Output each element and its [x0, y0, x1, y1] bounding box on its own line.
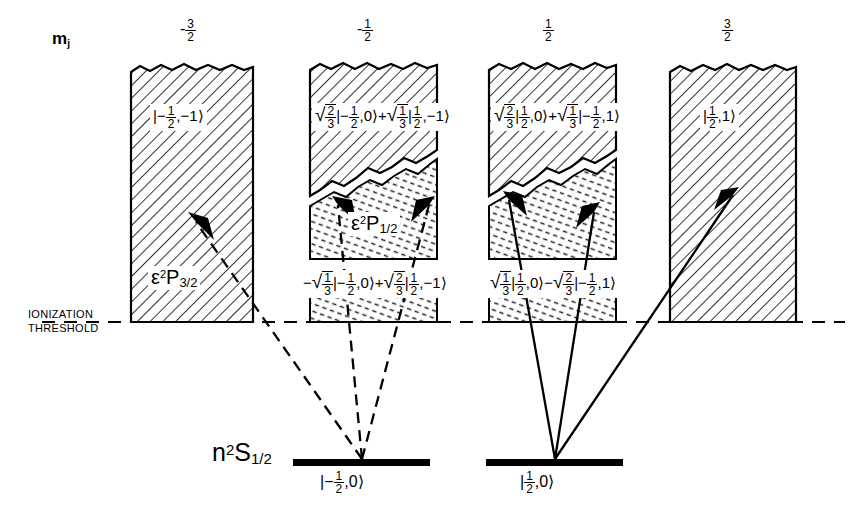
mj-header-col4: 32	[722, 18, 733, 43]
ground-level-bar-minus	[293, 459, 430, 466]
figure-canvas: mj -32 -12 12 32 |−12,−1⟩ ε2P3/2 √23|−12…	[0, 0, 851, 525]
ionization-threshold-line2: THRESHOLD	[28, 322, 99, 336]
term-label-p32: ε2P3/2	[148, 266, 200, 290]
ground-term-letter: S	[234, 438, 251, 466]
diagram-svg	[0, 0, 851, 525]
state-label-col3-lower: √13|12,0⟩−√23|−12,1⟩	[487, 270, 619, 298]
mj-header-col1: -32	[180, 18, 196, 43]
term-label-p12: ε2P1/2	[348, 212, 400, 236]
state-label-col3-upper: √23|12,0⟩+√13|−12,1⟩	[491, 103, 623, 131]
ground-level-ket-plus: |12,0⟩	[520, 470, 554, 495]
state-label-col1-upper: |−12,−1⟩	[150, 104, 207, 131]
state-label-col4-upper: |12,1⟩	[700, 104, 739, 131]
state-label-col2-lower: −√13|−12,0⟩+√23|12,−1⟩	[300, 270, 450, 298]
mj-header-col1-den: 2	[185, 31, 196, 43]
mj-header-col2: -12	[357, 18, 373, 43]
ground-term-j: 1/2	[251, 450, 272, 467]
mj-axis-label: mj	[52, 30, 70, 49]
ionization-threshold-label: IONIZATION THRESHOLD	[28, 308, 99, 336]
state-label-col2-upper: √23|−12,0⟩+√13|12,−1⟩	[312, 103, 453, 131]
ground-level-ket-minus: |−12,0⟩	[320, 470, 364, 495]
ground-term-label: n2S1/2	[212, 440, 272, 466]
ground-term-multiplicity: 2	[226, 441, 234, 458]
mj-header-col4-den: 2	[722, 31, 733, 43]
ground-term-n: n	[212, 438, 226, 466]
mj-header-col2-den: 2	[362, 31, 373, 43]
mj-header-col3-den: 2	[543, 31, 554, 43]
mj-axis-subscript: j	[67, 38, 70, 49]
mj-axis-symbol: m	[52, 29, 67, 48]
ground-level-bar-plus	[486, 459, 623, 466]
mj-header-col3: 12	[543, 18, 554, 43]
ionization-threshold-line1: IONIZATION	[28, 308, 99, 322]
